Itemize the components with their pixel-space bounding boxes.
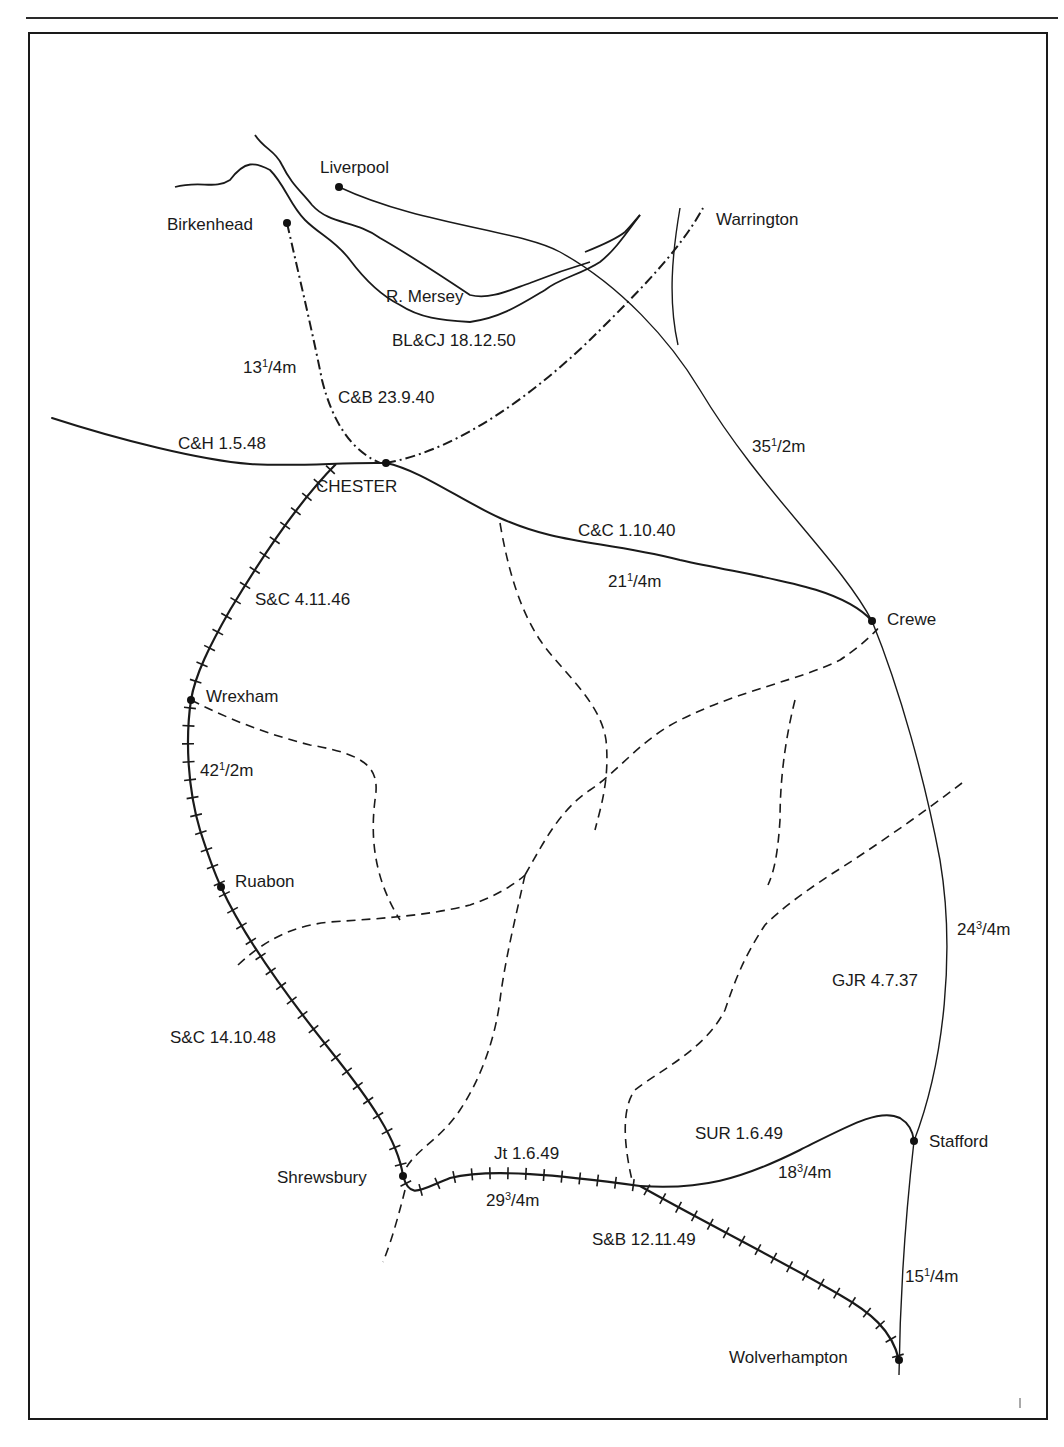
railway-line-jt bbox=[403, 1173, 640, 1190]
line-labels-group: BL&CJ 18.12.50C&B 23.9.40C&H 1.5.48C&C 1… bbox=[170, 287, 918, 1249]
line-label: SUR 1.6.49 bbox=[695, 1124, 783, 1143]
station-label-wolverhampton: Wolverhampton bbox=[729, 1348, 848, 1367]
station-label-ruabon: Ruabon bbox=[235, 872, 295, 891]
stations-group: LiverpoolBirkenheadCHESTERCreweWrexhamRu… bbox=[167, 158, 988, 1367]
line-label: C&B 23.9.40 bbox=[338, 388, 434, 407]
dashed-lines-group bbox=[191, 523, 962, 1262]
track-tick bbox=[182, 726, 194, 727]
line-label: S&B 12.11.49 bbox=[592, 1230, 696, 1249]
track-tick bbox=[256, 953, 266, 960]
distance-label: 351/2m bbox=[752, 436, 805, 456]
track-tick bbox=[597, 1175, 598, 1187]
station-dot-chester bbox=[382, 459, 390, 467]
railway-line-cc bbox=[386, 463, 872, 621]
railway-line-sb bbox=[640, 1186, 899, 1360]
track-tick bbox=[266, 968, 276, 975]
line-label: S&C 4.11.46 bbox=[255, 590, 350, 609]
track-tick bbox=[276, 983, 286, 990]
station-label-warrington: Warrington bbox=[716, 210, 799, 229]
railway-map: LiverpoolBirkenheadCHESTERCreweWrexhamRu… bbox=[0, 0, 1064, 1447]
station-dot-crewe bbox=[868, 617, 876, 625]
railway-line-sc-north bbox=[191, 464, 336, 700]
track-tick bbox=[250, 567, 260, 574]
track-tick bbox=[184, 707, 196, 708]
track-tick bbox=[184, 779, 196, 780]
railway-line-cb bbox=[287, 223, 380, 463]
distance-label: 151/4m bbox=[905, 1266, 958, 1286]
station-dot-wrexham bbox=[187, 696, 195, 704]
track-tick bbox=[561, 1171, 562, 1183]
line-label: C&C 1.10.40 bbox=[578, 521, 675, 540]
dashed-line bbox=[768, 700, 795, 885]
distance-label: 131/4m bbox=[243, 357, 296, 377]
track-tick bbox=[280, 522, 290, 529]
line-label: BL&CJ 18.12.50 bbox=[392, 331, 516, 350]
river-bank bbox=[585, 215, 640, 252]
track-tick bbox=[260, 552, 270, 559]
track-tick bbox=[615, 1177, 617, 1189]
track-tick bbox=[471, 1168, 472, 1180]
station-dot-birkenhead bbox=[283, 219, 291, 227]
track-tick bbox=[363, 1097, 373, 1104]
station-dot-wolverhampton bbox=[895, 1356, 903, 1364]
track-tick bbox=[353, 1082, 363, 1089]
station-label-crewe: Crewe bbox=[887, 610, 936, 629]
line-label: S&C 14.10.48 bbox=[170, 1028, 276, 1047]
track-tick bbox=[579, 1172, 580, 1184]
track-tick bbox=[187, 797, 199, 799]
station-label-shrewsbury: Shrewsbury bbox=[277, 1168, 367, 1187]
dashed-line bbox=[405, 875, 525, 1170]
track-tick bbox=[240, 582, 250, 588]
track-tick bbox=[230, 598, 240, 604]
station-label-birkenhead: Birkenhead bbox=[167, 215, 253, 234]
station-dot-ruabon bbox=[217, 883, 225, 891]
track-tick bbox=[526, 1168, 527, 1180]
track-tick bbox=[849, 1297, 855, 1307]
station-label-wrexham: Wrexham bbox=[206, 687, 278, 706]
track-tick bbox=[183, 761, 195, 762]
dashed-line bbox=[383, 1190, 405, 1262]
dashed-line bbox=[525, 629, 878, 875]
line-label: C&H 1.5.48 bbox=[178, 434, 266, 453]
railway-line-sc-mid bbox=[188, 700, 221, 887]
distance-labels-group: 131/4m351/2m211/4m421/2m243/4m293/4m183/… bbox=[200, 357, 1010, 1286]
station-dot-liverpool bbox=[335, 183, 343, 191]
railway-line-gjr bbox=[339, 187, 947, 1375]
line-label: R. Mersey bbox=[386, 287, 464, 306]
track-tick bbox=[270, 537, 280, 544]
distance-label: 183/4m bbox=[778, 1162, 831, 1182]
distance-label: 293/4m bbox=[486, 1190, 539, 1210]
distance-label: 421/2m bbox=[200, 760, 253, 780]
track-tick bbox=[373, 1113, 383, 1119]
line-label: GJR 4.7.37 bbox=[832, 971, 918, 990]
distance-label: 243/4m bbox=[957, 919, 1010, 939]
line-label: Jt 1.6.49 bbox=[494, 1144, 559, 1163]
track-tick bbox=[543, 1169, 544, 1181]
station-dot-shrewsbury bbox=[399, 1172, 407, 1180]
station-dot-stafford bbox=[910, 1137, 918, 1145]
station-label-liverpool: Liverpool bbox=[320, 158, 389, 177]
station-label-stafford: Stafford bbox=[929, 1132, 988, 1151]
track-tick bbox=[633, 1179, 635, 1191]
railway-line-gjr-warrington bbox=[672, 208, 680, 345]
station-label-chester: CHESTER bbox=[316, 477, 397, 496]
dashed-line bbox=[500, 523, 607, 830]
distance-label: 211/4m bbox=[608, 571, 661, 591]
